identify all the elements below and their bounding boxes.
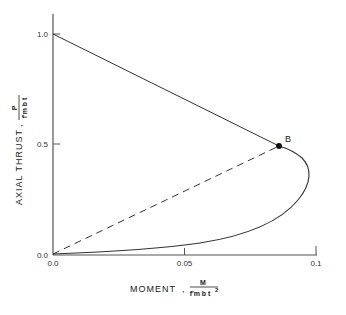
upper-solid-line [53, 34, 279, 146]
y-axis-comma: , [14, 123, 24, 127]
y-frac-denominator: f'm b t [21, 97, 28, 118]
y-axis-label-group: AXIAL THRUST , P f'm b t [11, 95, 28, 205]
y-tick-label-1.0: 1.0 [37, 30, 49, 39]
point-b-label: B [285, 134, 291, 144]
x-axis-label: MOMENT [130, 284, 176, 294]
point-b-marker [276, 143, 282, 149]
chart-canvas: 1.0 0.5 0.0 0.0 0.05 0.1 B MOMENT , M f'… [0, 0, 346, 315]
y-axis-label: AXIAL THRUST [14, 129, 24, 205]
x-frac-denominator: f'm b t [190, 290, 211, 297]
x-frac-numerator: M [200, 279, 206, 286]
x-frac-exponent: 2 [215, 287, 219, 293]
x-tick-label-0.1: 0.1 [310, 259, 322, 268]
x-axis-comma: , [182, 284, 186, 294]
x-tick-label-0.05: 0.05 [177, 259, 193, 268]
lower-interaction-curve [53, 146, 309, 254]
x-tick-label-0.0: 0.0 [47, 259, 59, 268]
y-tick-label-0.5: 0.5 [37, 140, 49, 149]
y-frac-numerator: P [11, 105, 18, 110]
dashed-line-to-b [53, 146, 279, 254]
